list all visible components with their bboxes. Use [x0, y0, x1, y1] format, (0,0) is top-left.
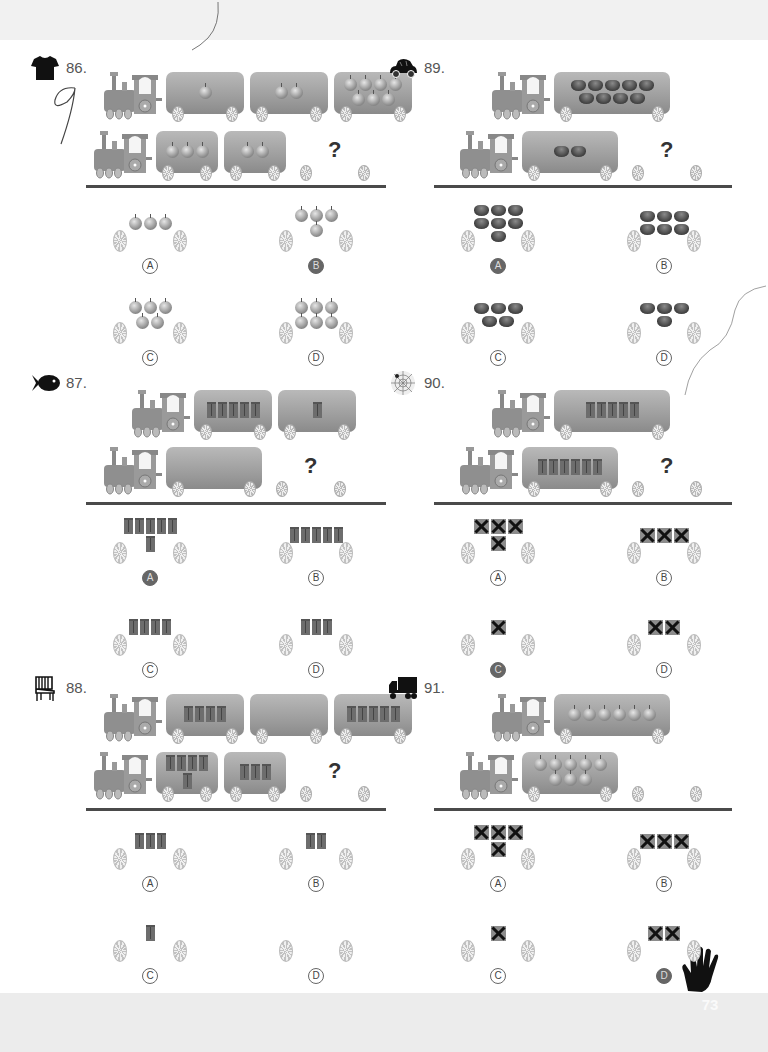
basket-icon — [657, 316, 672, 327]
option-label[interactable]: D — [308, 350, 324, 366]
apple-icon — [583, 708, 596, 721]
question-mark: ? — [660, 137, 673, 163]
gift-icon — [206, 706, 215, 722]
answer-option-d[interactable]: D — [624, 604, 704, 684]
gift-icon — [166, 755, 175, 771]
locomotive — [488, 70, 550, 120]
basket-icon — [571, 146, 586, 157]
option-label[interactable]: B — [656, 570, 672, 586]
option-label[interactable]: D — [656, 350, 672, 366]
chair-icon — [30, 675, 60, 701]
wheel — [687, 230, 701, 252]
wagon — [522, 752, 618, 794]
answer-option-d[interactable]: D — [624, 910, 704, 990]
option-label[interactable]: D — [656, 968, 672, 984]
option-label[interactable]: C — [490, 968, 506, 984]
wagon — [250, 694, 328, 736]
apple-icon — [374, 78, 387, 91]
option-label[interactable]: A — [142, 258, 158, 274]
gift-icon — [251, 764, 260, 780]
xbox-icon — [474, 519, 489, 534]
wheel — [521, 230, 535, 252]
xbox-icon — [491, 620, 506, 635]
option-label[interactable]: C — [490, 662, 506, 678]
answer-option-c[interactable]: C — [110, 604, 190, 684]
answer-option-d[interactable]: D — [624, 292, 704, 372]
locomotive — [456, 129, 518, 179]
wheel — [173, 940, 187, 962]
option-label[interactable]: B — [656, 876, 672, 892]
answer-option-a[interactable]: A — [110, 818, 190, 898]
basket-icon — [571, 80, 586, 91]
gift-icon — [183, 773, 192, 789]
option-label[interactable]: A — [490, 258, 506, 274]
missing-wagon — [628, 752, 706, 794]
wheel — [687, 542, 701, 564]
problem-number: 91. — [424, 679, 445, 696]
apple-icon — [568, 708, 581, 721]
option-label[interactable]: D — [308, 662, 324, 678]
answer-option-b[interactable]: B — [276, 200, 356, 280]
answer-option-c[interactable]: C — [458, 910, 538, 990]
option-label[interactable]: C — [490, 350, 506, 366]
answer-option-d[interactable]: D — [276, 910, 356, 990]
divider — [86, 502, 386, 505]
apple-icon — [549, 773, 562, 786]
answer-option-c[interactable]: C — [110, 292, 190, 372]
answer-option-b[interactable]: B — [624, 512, 704, 592]
apple-icon — [129, 301, 142, 314]
option-label[interactable]: C — [142, 350, 158, 366]
wheel — [627, 322, 641, 344]
answer-option-d[interactable]: D — [276, 604, 356, 684]
train-bottom — [456, 748, 756, 800]
truck-icon — [388, 675, 418, 701]
answer-option-c[interactable]: C — [458, 292, 538, 372]
answer-option-a[interactable]: A — [458, 818, 538, 898]
apple-icon — [325, 316, 338, 329]
answer-option-c[interactable]: C — [458, 604, 538, 684]
apple-icon — [598, 708, 611, 721]
fish-icon — [30, 370, 60, 396]
apple-icon — [628, 708, 641, 721]
apple-icon — [613, 708, 626, 721]
gift-icon — [135, 518, 144, 534]
option-label[interactable]: D — [308, 968, 324, 984]
option-label[interactable]: A — [490, 570, 506, 586]
gift-icon — [630, 402, 639, 418]
option-label[interactable]: A — [142, 570, 158, 586]
answer-option-a[interactable]: A — [458, 200, 538, 280]
option-label[interactable]: A — [490, 876, 506, 892]
handwritten-note — [45, 80, 85, 150]
option-label[interactable]: A — [142, 876, 158, 892]
option-label[interactable]: B — [656, 258, 672, 274]
answer-option-a[interactable]: A — [110, 200, 190, 280]
apple-icon — [199, 86, 212, 99]
train-top — [100, 690, 414, 742]
gift-icon — [157, 518, 166, 534]
xbox-icon — [491, 519, 506, 534]
option-label[interactable]: B — [308, 876, 324, 892]
basket-icon — [588, 80, 603, 91]
answer-option-b[interactable]: B — [276, 818, 356, 898]
option-label[interactable]: C — [142, 968, 158, 984]
locomotive — [128, 388, 190, 438]
wheel — [627, 542, 641, 564]
answer-option-b[interactable]: B — [624, 818, 704, 898]
basket-icon — [639, 80, 654, 91]
question-mark: ? — [304, 453, 317, 479]
gift-icon — [560, 459, 569, 475]
option-label[interactable]: B — [308, 258, 324, 274]
answer-option-a[interactable]: A — [110, 512, 190, 592]
answer-option-c[interactable]: C — [110, 910, 190, 990]
answer-option-b[interactable]: B — [624, 200, 704, 280]
problem-number: 87. — [66, 374, 87, 391]
answer-option-a[interactable]: A — [458, 512, 538, 592]
locomotive — [90, 129, 152, 179]
answer-option-b[interactable]: B — [276, 512, 356, 592]
answer-option-d[interactable]: D — [276, 292, 356, 372]
option-label[interactable]: B — [308, 570, 324, 586]
option-label[interactable]: C — [142, 662, 158, 678]
wheel — [339, 542, 353, 564]
option-label[interactable]: D — [656, 662, 672, 678]
gift-icon — [380, 706, 389, 722]
